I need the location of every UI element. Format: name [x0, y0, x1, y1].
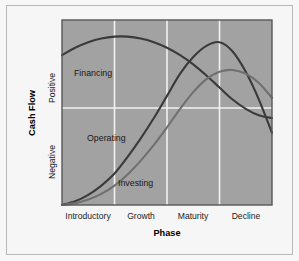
series-label-operating: Operating: [87, 133, 126, 143]
x-axis-label-growth: Growth: [127, 211, 155, 221]
y-axis-label-negative: Negative: [47, 145, 57, 179]
cash-flow-lifecycle-figure: Financing Operating Investing Positive N…: [0, 0, 299, 261]
series-label-financing: Financing: [74, 68, 112, 78]
y-axis-label-positive: Positive: [47, 73, 57, 103]
y-axis-region-labels: Positive Negative: [47, 73, 57, 179]
chart-canvas: Financing Operating Investing Positive N…: [0, 0, 299, 261]
series-label-investing: Investing: [118, 178, 153, 188]
x-axis-title: Phase: [153, 228, 180, 238]
x-axis-label-decline: Decline: [232, 211, 261, 221]
x-axis-label-maturity: Maturity: [178, 211, 209, 221]
y-axis-title: Cash Flow: [27, 89, 37, 136]
x-axis-tick-labels: Introductory Growth Maturity Decline: [65, 211, 260, 221]
x-axis-label-introductory: Introductory: [65, 211, 111, 221]
